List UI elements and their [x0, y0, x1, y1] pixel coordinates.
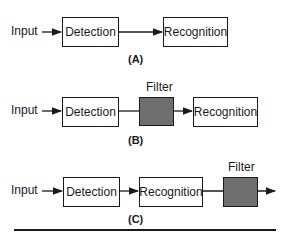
recognition-block-a: Recognition [163, 17, 228, 47]
input-label-b: Input [11, 103, 38, 117]
detection-block-b: Detection [62, 97, 119, 127]
detection-block-a: Detection [62, 17, 119, 47]
filter-block-b [139, 97, 174, 126]
caption-c: (C) [128, 213, 143, 225]
filter-label-b: Filter [146, 80, 173, 94]
bottom-rule [14, 229, 276, 231]
filter-label-c: Filter [228, 160, 255, 174]
detection-block-c: Detection [63, 177, 120, 207]
recognition-block-b: Recognition [193, 97, 258, 127]
caption-b: (B) [128, 134, 143, 146]
input-label-c: Input [11, 183, 38, 197]
input-label-a: Input [11, 24, 38, 38]
caption-a: (A) [128, 53, 143, 65]
filter-block-c [223, 177, 258, 207]
recognition-block-c: Recognition [139, 177, 203, 207]
